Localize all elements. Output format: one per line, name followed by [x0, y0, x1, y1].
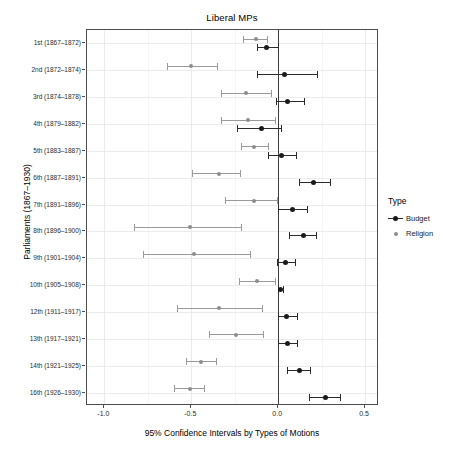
- legend-key-icon: [388, 213, 403, 224]
- y-axis-tick-mark: [82, 42, 85, 43]
- gridline-major-horizontal: [87, 231, 377, 232]
- confidence-interval-cap: [257, 71, 258, 78]
- legend-key-dot-icon: [394, 232, 398, 236]
- x-axis-tick-label: -1.0: [97, 410, 109, 417]
- point-marker: [285, 99, 290, 104]
- gridline-minor-vertical: [322, 30, 323, 404]
- gridline-major-horizontal: [87, 366, 377, 367]
- y-axis-tick-mark: [82, 392, 85, 393]
- gridline-major-horizontal: [87, 312, 377, 313]
- gridline-minor-vertical: [235, 30, 236, 404]
- point-marker: [252, 199, 256, 203]
- point-marker: [264, 45, 269, 50]
- y-axis-tick-mark: [82, 284, 85, 285]
- gridline-major-horizontal: [87, 70, 377, 71]
- confidence-interval-cap: [297, 340, 298, 347]
- confidence-interval-cap: [216, 358, 217, 365]
- x-axis-ticks: -1.0-0.50.00.5: [86, 405, 378, 423]
- confidence-interval-cap: [204, 385, 205, 392]
- legend-item-religion[interactable]: Religion: [388, 227, 450, 240]
- y-axis-tick-mark: [82, 365, 85, 366]
- confidence-interval-cap: [268, 152, 269, 159]
- gridline-major-horizontal: [87, 178, 377, 179]
- gridline-major-vertical: [365, 30, 366, 404]
- confidence-interval-cap: [243, 36, 244, 43]
- confidence-interval-cap: [192, 170, 193, 177]
- y-axis-tick-mark: [82, 204, 85, 205]
- point-marker: [255, 279, 259, 283]
- confidence-interval-cap: [278, 206, 279, 213]
- point-marker: [192, 252, 196, 256]
- confidence-interval-cap: [167, 63, 168, 70]
- confidence-interval-cap: [316, 232, 317, 239]
- legend-entries: BudgetReligion: [388, 212, 450, 240]
- legend-item-budget[interactable]: Budget: [388, 212, 450, 225]
- confidence-interval-cap: [177, 305, 178, 312]
- confidence-interval-cap: [225, 197, 226, 204]
- gridline-major-horizontal: [87, 151, 377, 152]
- confidence-interval-cap: [257, 44, 258, 51]
- legend: Type BudgetReligion: [388, 196, 450, 242]
- legend-item-label: Religion: [406, 229, 433, 238]
- gridline-major-horizontal: [87, 43, 377, 44]
- gridline-major-horizontal: [87, 97, 377, 98]
- x-axis-tick-label: 0.0: [272, 410, 282, 417]
- confidence-interval-cap: [275, 117, 276, 124]
- gridline-major-horizontal: [87, 124, 377, 125]
- confidence-interval-cap: [268, 143, 269, 150]
- confidence-interval-cap: [134, 224, 135, 231]
- confidence-interval-cap: [330, 179, 331, 186]
- confidence-interval-cap: [239, 278, 240, 285]
- x-axis-tick-label: -0.5: [184, 410, 196, 417]
- y-axis-tick-mark: [82, 96, 85, 97]
- point-marker: [282, 72, 287, 77]
- y-axis-tick-mark: [82, 338, 85, 339]
- confidence-interval-cap: [186, 358, 187, 365]
- confidence-interval-cap: [317, 71, 318, 78]
- confidence-interval-cap: [289, 232, 290, 239]
- confidence-interval-cap: [217, 63, 218, 70]
- confidence-interval-cap: [278, 340, 279, 347]
- confidence-interval-cap: [299, 179, 300, 186]
- confidence-interval-bar: [143, 254, 250, 255]
- confidence-interval-cap: [241, 143, 242, 150]
- plot-area: [87, 30, 377, 404]
- confidence-interval-cap: [209, 331, 210, 338]
- legend-key-icon: [388, 228, 403, 239]
- y-axis-tick-mark: [82, 230, 85, 231]
- legend-item-label: Budget: [406, 214, 430, 223]
- confidence-interval-cap: [283, 286, 284, 293]
- page-title: Liberal MPs: [86, 12, 378, 23]
- confidence-interval-bar: [257, 74, 317, 75]
- legend-title: Type: [388, 196, 450, 206]
- gridline-minor-vertical: [148, 30, 149, 404]
- confidence-interval-cap: [307, 206, 308, 213]
- confidence-interval-cap: [297, 313, 298, 320]
- y-axis-tick-mark: [82, 150, 85, 151]
- confidence-interval-cap: [278, 44, 279, 51]
- confidence-interval-cap: [287, 367, 288, 374]
- confidence-interval-cap: [174, 385, 175, 392]
- x-axis-tick-mark: [190, 405, 191, 408]
- point-marker: [297, 368, 302, 373]
- confidence-interval-cap: [237, 125, 238, 132]
- confidence-interval-cap: [271, 90, 272, 97]
- point-marker: [284, 314, 289, 319]
- point-marker: [311, 180, 316, 185]
- x-axis-tick-label: 0.5: [359, 410, 369, 417]
- point-marker: [254, 37, 258, 41]
- point-marker: [217, 172, 221, 176]
- confidence-interval-cap: [295, 259, 296, 266]
- x-axis-tick-mark: [103, 405, 104, 408]
- point-marker: [199, 360, 203, 364]
- confidence-interval-cap: [262, 305, 263, 312]
- confidence-interval-cap: [277, 259, 278, 266]
- y-axis-tick-mark: [82, 311, 85, 312]
- x-axis-tick-mark: [364, 405, 365, 408]
- confidence-interval-bar: [192, 173, 240, 174]
- confidence-interval-cap: [309, 394, 310, 401]
- confidence-interval-cap: [304, 98, 305, 105]
- confidence-interval-cap: [277, 197, 278, 204]
- confidence-interval-cap: [276, 98, 277, 105]
- point-marker: [188, 387, 192, 391]
